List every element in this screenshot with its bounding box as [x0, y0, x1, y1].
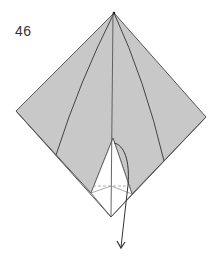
diagram-canvas: [0, 0, 224, 261]
top-point: [113, 12, 116, 15]
